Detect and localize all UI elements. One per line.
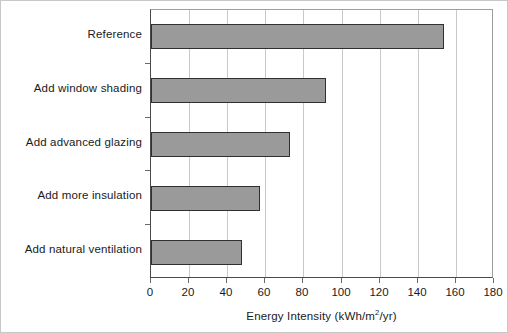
value-tick <box>302 278 303 283</box>
value-tick <box>150 278 151 283</box>
bar <box>151 240 242 265</box>
category-label: Reference <box>88 28 142 40</box>
category-tick <box>145 117 150 118</box>
category-label: Add natural ventilation <box>25 243 142 255</box>
value-tick <box>379 278 380 283</box>
value-tick-label: 40 <box>220 286 233 298</box>
x-axis-title-after: /yr) <box>379 310 396 322</box>
chart-figure: ReferenceAdd window shadingAdd advanced … <box>0 0 508 333</box>
value-tick <box>341 278 342 283</box>
value-tick <box>493 278 494 283</box>
plot-area <box>150 9 493 278</box>
value-tick-label: 0 <box>147 286 153 298</box>
value-tick-label: 180 <box>483 286 502 298</box>
x-axis-title: Energy Intensity (kWh/m2/yr) <box>150 310 493 322</box>
value-tick <box>264 278 265 283</box>
category-label: Add more insulation <box>38 189 143 201</box>
bar <box>151 78 326 103</box>
category-tick <box>145 170 150 171</box>
category-tick <box>145 63 150 64</box>
category-tick <box>145 224 150 225</box>
bar-row <box>151 118 492 172</box>
value-tick-label: 120 <box>369 286 388 298</box>
bar-row <box>151 225 492 279</box>
bar-row <box>151 171 492 225</box>
value-tick <box>226 278 227 283</box>
value-tick-label: 100 <box>331 286 350 298</box>
bar-row <box>151 64 492 118</box>
category-label: Add window shading <box>34 82 142 94</box>
bar-row <box>151 10 492 64</box>
x-axis-title-before: Energy Intensity (kWh/m <box>246 310 375 322</box>
value-tick-label: 20 <box>182 286 195 298</box>
value-tick <box>417 278 418 283</box>
value-tick <box>188 278 189 283</box>
value-tick-label: 80 <box>296 286 309 298</box>
bar <box>151 24 444 49</box>
category-label: Add advanced glazing <box>26 136 142 148</box>
value-tick-label: 60 <box>258 286 271 298</box>
value-tick-label: 140 <box>407 286 426 298</box>
value-tick <box>455 278 456 283</box>
bar <box>151 132 290 157</box>
bar <box>151 186 260 211</box>
value-tick-label: 160 <box>445 286 464 298</box>
